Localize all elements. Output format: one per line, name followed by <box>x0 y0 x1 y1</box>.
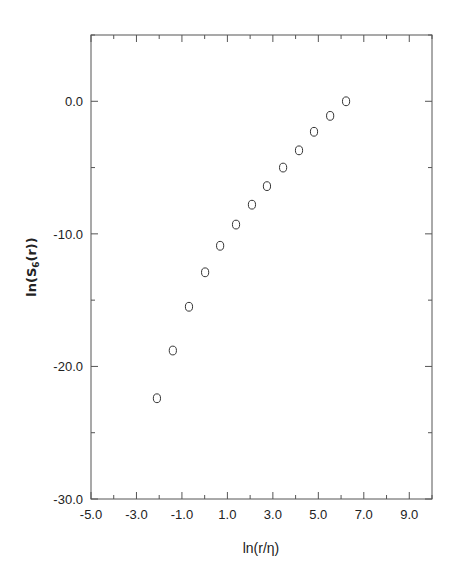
y-axis-title: ln(S6(r)) <box>24 237 41 297</box>
data-point <box>217 241 224 250</box>
data-point <box>185 302 192 311</box>
y-axis-ticks: 0.0-10.0-20.0-30.0 <box>53 35 432 507</box>
x-tick-label: -1.0 <box>171 507 193 522</box>
x-axis-ticks: -5.0-3.0-1.01.03.05.07.09.0 <box>80 35 432 522</box>
data-points <box>153 97 349 403</box>
data-point <box>327 111 334 120</box>
y-tick-label: 0.0 <box>65 94 83 109</box>
y-axis-title-suffix: (r)) <box>24 237 39 261</box>
data-point <box>263 182 270 191</box>
x-tick-label: 1.0 <box>218 507 236 522</box>
data-point <box>310 127 317 136</box>
x-tick-label: 9.0 <box>400 507 418 522</box>
data-point <box>202 268 209 277</box>
x-tick-label: -3.0 <box>125 507 147 522</box>
data-point <box>295 146 302 155</box>
y-tick-label: -20.0 <box>53 359 83 374</box>
data-point <box>248 200 255 209</box>
x-tick-label: 3.0 <box>264 507 282 522</box>
plot-frame <box>91 35 432 499</box>
y-axis-title-prefix: ln(S <box>24 268 39 297</box>
data-point <box>279 163 286 172</box>
scatter-chart: -5.0-3.0-1.01.03.05.07.09.0 0.0-10.0-20.… <box>0 0 454 582</box>
x-axis-title: ln(r/η) <box>243 540 280 556</box>
data-point <box>232 220 239 229</box>
x-tick-label: -5.0 <box>80 507 102 522</box>
y-tick-label: -30.0 <box>53 492 83 507</box>
x-tick-label: 5.0 <box>309 507 327 522</box>
x-tick-label: 7.0 <box>355 507 373 522</box>
data-point <box>153 394 160 403</box>
data-point <box>169 346 176 355</box>
data-point <box>342 97 349 106</box>
y-tick-label: -10.0 <box>53 227 83 242</box>
